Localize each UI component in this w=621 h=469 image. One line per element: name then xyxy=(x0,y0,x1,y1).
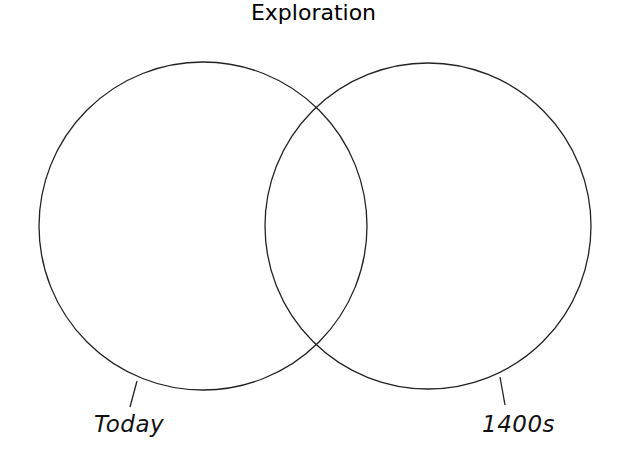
left-label-leader xyxy=(130,381,137,407)
right-set-label: 1400s xyxy=(482,411,555,437)
right-circle-1400s xyxy=(265,63,591,389)
venn-diagram xyxy=(0,0,621,469)
left-circle-today xyxy=(39,62,367,390)
right-label-leader xyxy=(500,377,505,405)
left-set-label: Today xyxy=(94,411,164,437)
